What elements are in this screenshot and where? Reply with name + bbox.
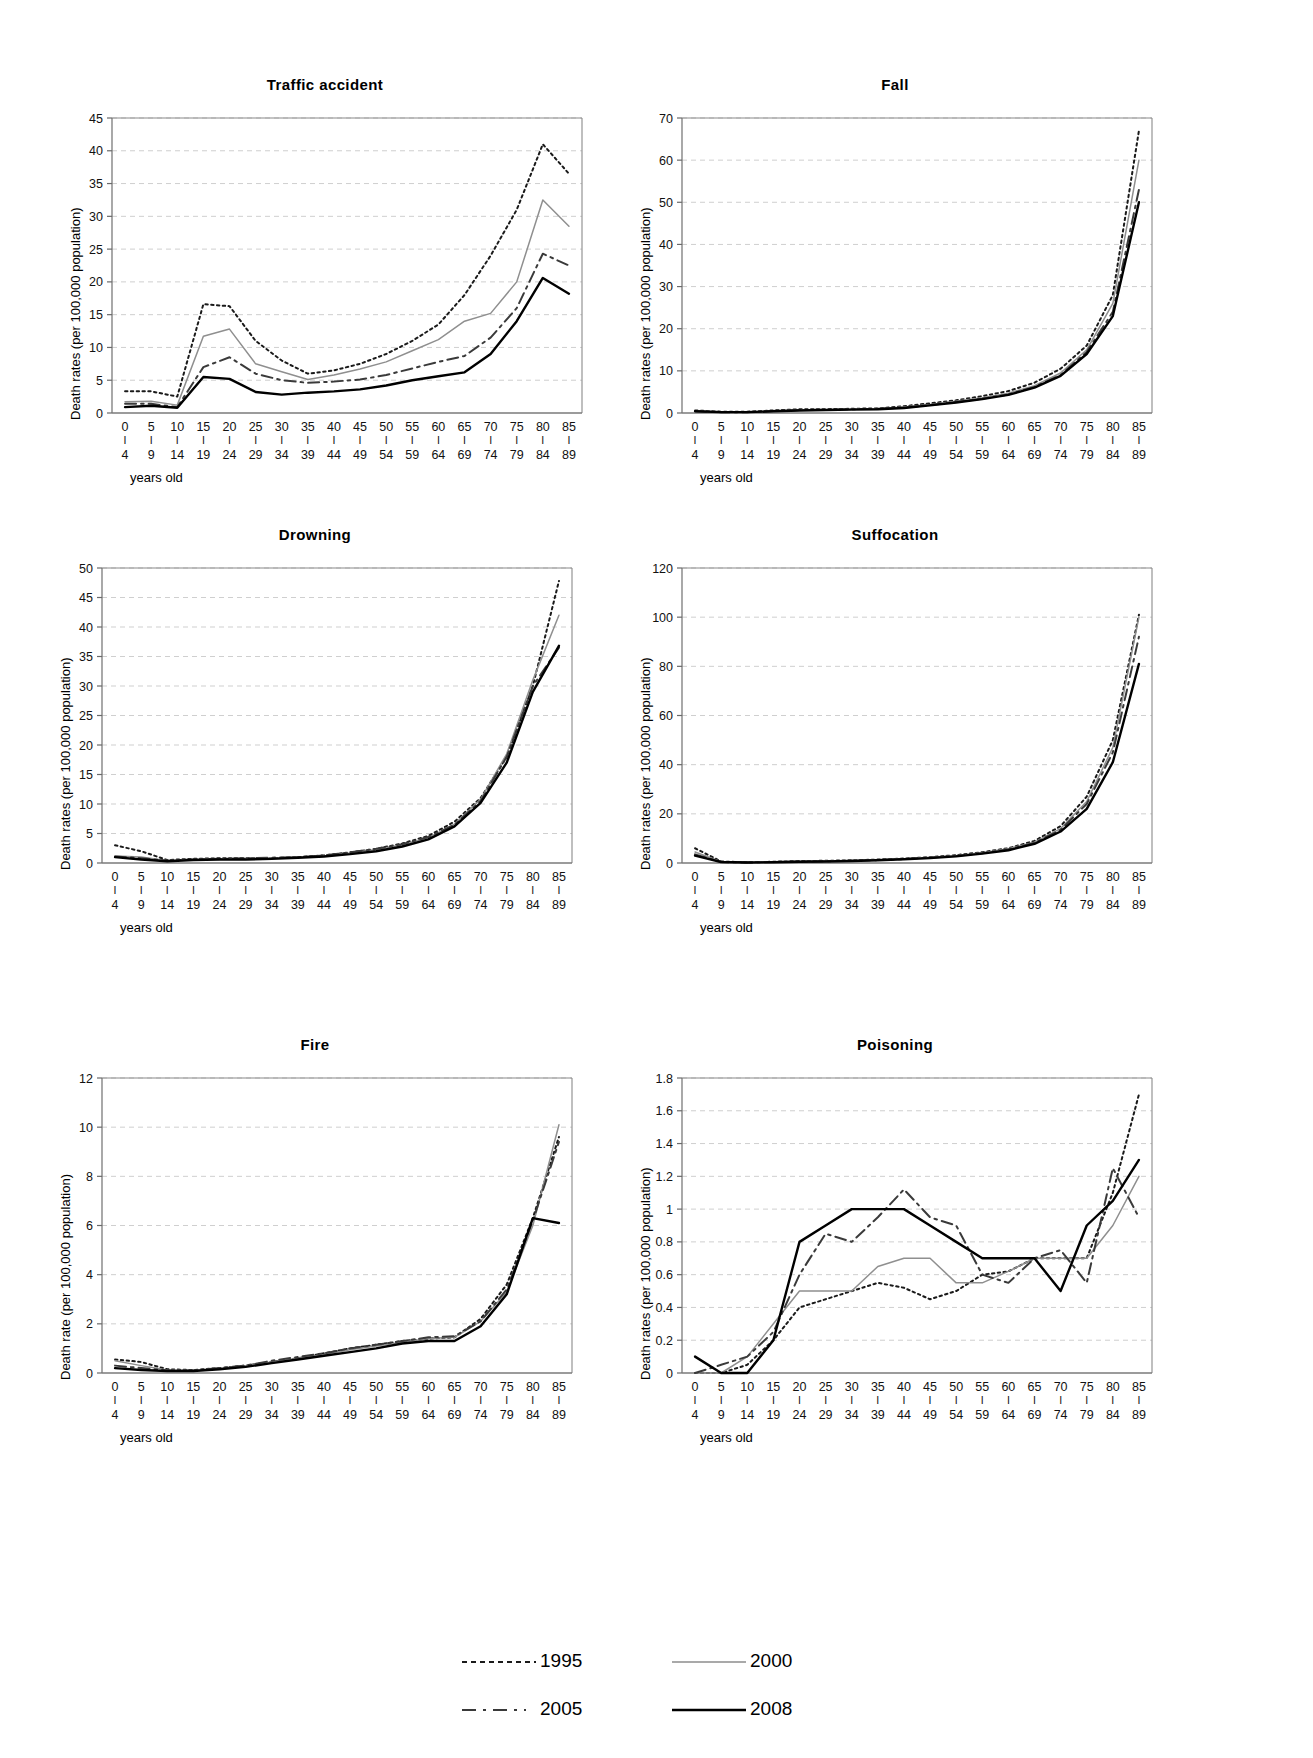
svg-text:I: I xyxy=(306,434,309,446)
svg-text:70: 70 xyxy=(484,420,498,434)
svg-text:I: I xyxy=(296,1394,299,1406)
plot-area: 0204060801001200I45I910I1415I1920I2425I2… xyxy=(590,510,1210,910)
svg-text:I: I xyxy=(1033,434,1036,446)
svg-text:I: I xyxy=(720,1394,723,1406)
svg-text:85: 85 xyxy=(1132,870,1146,884)
svg-text:I: I xyxy=(1007,884,1010,896)
svg-text:30: 30 xyxy=(275,420,289,434)
svg-text:I: I xyxy=(114,884,117,896)
svg-text:0: 0 xyxy=(86,857,93,871)
svg-text:84: 84 xyxy=(1106,448,1120,462)
svg-text:65: 65 xyxy=(448,1380,462,1394)
svg-text:85: 85 xyxy=(552,1380,566,1394)
svg-text:10: 10 xyxy=(740,1380,754,1394)
svg-text:75: 75 xyxy=(1080,1380,1094,1394)
svg-text:10: 10 xyxy=(160,1380,174,1394)
svg-text:19: 19 xyxy=(766,448,780,462)
svg-text:0: 0 xyxy=(122,420,129,434)
svg-text:74: 74 xyxy=(1054,1408,1068,1422)
svg-text:70: 70 xyxy=(659,112,673,126)
svg-text:40: 40 xyxy=(659,238,673,252)
svg-text:I: I xyxy=(192,884,195,896)
svg-text:9: 9 xyxy=(718,448,725,462)
svg-text:40: 40 xyxy=(897,1380,911,1394)
svg-text:10: 10 xyxy=(89,341,103,355)
svg-text:80: 80 xyxy=(1106,870,1120,884)
svg-text:I: I xyxy=(694,884,697,896)
svg-text:1.6: 1.6 xyxy=(656,1104,673,1118)
svg-text:I: I xyxy=(244,1394,247,1406)
svg-text:I: I xyxy=(479,884,482,896)
svg-text:60: 60 xyxy=(659,709,673,723)
svg-text:59: 59 xyxy=(975,448,989,462)
svg-text:70: 70 xyxy=(1054,420,1068,434)
svg-text:29: 29 xyxy=(239,898,253,912)
svg-text:9: 9 xyxy=(718,1408,725,1422)
svg-text:I: I xyxy=(463,434,466,446)
svg-text:15: 15 xyxy=(196,420,210,434)
svg-text:40: 40 xyxy=(897,420,911,434)
svg-text:50: 50 xyxy=(949,420,963,434)
svg-text:10: 10 xyxy=(160,870,174,884)
svg-text:30: 30 xyxy=(79,680,93,694)
svg-text:I: I xyxy=(720,884,723,896)
chart-panel-fall: Fall Death rates (per 100,000 population… xyxy=(590,60,1210,500)
svg-text:60: 60 xyxy=(431,420,445,434)
svg-text:19: 19 xyxy=(766,1408,780,1422)
svg-text:0.2: 0.2 xyxy=(656,1334,673,1348)
svg-text:24: 24 xyxy=(793,1408,807,1422)
svg-text:49: 49 xyxy=(343,1408,357,1422)
svg-text:I: I xyxy=(694,434,697,446)
plot-area: 051015202530354045500I45I910I1415I1920I2… xyxy=(10,510,630,910)
svg-text:I: I xyxy=(349,884,352,896)
svg-text:I: I xyxy=(505,1394,508,1406)
svg-text:I: I xyxy=(427,884,430,896)
svg-text:0.8: 0.8 xyxy=(656,1235,673,1249)
svg-text:39: 39 xyxy=(871,898,885,912)
svg-text:I: I xyxy=(929,884,932,896)
svg-text:I: I xyxy=(981,884,984,896)
svg-text:45: 45 xyxy=(343,870,357,884)
svg-text:I: I xyxy=(505,884,508,896)
svg-text:1.4: 1.4 xyxy=(656,1137,673,1151)
svg-text:I: I xyxy=(1085,434,1088,446)
svg-text:60: 60 xyxy=(659,154,673,168)
svg-text:I: I xyxy=(902,434,905,446)
svg-text:6: 6 xyxy=(86,1219,93,1233)
svg-text:19: 19 xyxy=(766,898,780,912)
svg-text:54: 54 xyxy=(369,898,383,912)
svg-text:9: 9 xyxy=(138,898,145,912)
svg-text:0: 0 xyxy=(112,870,119,884)
plot-area: 00.20.40.60.811.21.41.61.80I45I910I1415I… xyxy=(590,1020,1210,1420)
svg-text:I: I xyxy=(489,434,492,446)
svg-text:15: 15 xyxy=(766,1380,780,1394)
svg-text:I: I xyxy=(929,434,932,446)
svg-text:74: 74 xyxy=(1054,448,1068,462)
svg-text:29: 29 xyxy=(819,1408,833,1422)
svg-text:0: 0 xyxy=(692,870,699,884)
legend-swatch-1995 xyxy=(460,1654,538,1668)
x-axis-label: years old xyxy=(130,470,183,485)
svg-text:70: 70 xyxy=(1054,1380,1068,1394)
plot-area: 0246810120I45I910I1415I1920I2425I2930I34… xyxy=(10,1020,630,1420)
svg-text:20: 20 xyxy=(89,275,103,289)
svg-text:29: 29 xyxy=(819,898,833,912)
svg-text:I: I xyxy=(876,434,879,446)
svg-text:55: 55 xyxy=(975,420,989,434)
svg-text:9: 9 xyxy=(148,448,155,462)
svg-text:59: 59 xyxy=(975,898,989,912)
svg-text:70: 70 xyxy=(474,1380,488,1394)
svg-text:I: I xyxy=(280,434,283,446)
svg-text:79: 79 xyxy=(1080,448,1094,462)
svg-text:54: 54 xyxy=(949,898,963,912)
svg-text:55: 55 xyxy=(975,1380,989,1394)
svg-text:89: 89 xyxy=(1132,448,1146,462)
svg-text:60: 60 xyxy=(1001,1380,1015,1394)
svg-text:I: I xyxy=(1111,1394,1114,1406)
svg-text:0.4: 0.4 xyxy=(656,1301,673,1315)
svg-text:I: I xyxy=(1085,1394,1088,1406)
svg-text:24: 24 xyxy=(213,898,227,912)
svg-text:74: 74 xyxy=(484,448,498,462)
svg-text:75: 75 xyxy=(510,420,524,434)
svg-text:I: I xyxy=(850,1394,853,1406)
